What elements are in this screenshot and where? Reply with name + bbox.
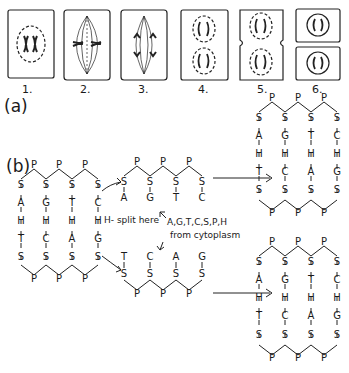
base: G [145,193,155,203]
hydrogen: H [41,216,51,226]
base: A [67,234,77,244]
cell-3-frame [121,10,167,80]
base: T [67,198,77,208]
hydrogen: H [16,216,26,226]
base: A [254,131,264,141]
phosphate: P [319,237,329,247]
sugar: S [41,180,51,190]
cell-6-chromosomes [314,19,323,69]
phosphate: P [293,208,303,218]
hydrogen: H [280,149,290,159]
base: A [306,167,316,177]
cell-1-nucleus [17,26,45,62]
base: T [306,131,316,141]
sugar: S [145,177,155,187]
phosphate: P [267,237,277,247]
cell-1-chromosomes [24,36,37,52]
phosphate: P [158,289,168,299]
base: G [41,198,51,208]
sugar: S [119,269,129,279]
base: G [93,234,103,244]
base: C [41,234,51,244]
sugar: S [119,177,129,187]
cell-5-chromosomes [256,19,266,69]
base: T [254,167,264,177]
phosphate: P [293,353,303,363]
phosphate: P [80,274,90,284]
base: C [145,252,155,262]
phosphate: P [29,160,39,170]
hydrogen: H [254,149,264,159]
sugar: S [67,252,77,262]
sugar: S [93,180,103,190]
base: A [254,275,264,285]
sugar: S [171,177,181,187]
phosphate: P [319,93,329,103]
sugar: S [254,113,264,123]
part-b-label: (b) [6,158,30,175]
sugar: S [254,185,264,195]
phosphate: P [267,208,277,218]
phosphate: P [132,157,142,167]
base: G [280,275,290,285]
sugar: S [332,113,342,123]
sugar: S [254,257,264,267]
phosphate: P [54,274,64,284]
hydrogen: H [280,293,290,303]
cell-3-chromosomes [134,34,156,56]
hydrogen: H [332,149,342,159]
cell-4-chromosomes [199,22,209,68]
base: A [119,193,129,203]
sugar: S [306,185,316,195]
sugar: S [67,180,77,190]
cell-4-frame [181,10,228,80]
phosphate: P [319,353,329,363]
base: C [93,198,103,208]
phosphate: P [29,274,39,284]
base: G [197,252,207,262]
base: C [280,311,290,321]
cell-1-frame [8,10,54,78]
base: T [306,275,316,285]
phosphate: P [319,208,329,218]
sugar: S [171,269,181,279]
phosphate: P [184,157,194,167]
base: A [171,252,181,262]
sugar: S [332,257,342,267]
base: G [332,311,342,321]
phosphate: P [132,289,142,299]
base: A [16,198,26,208]
sugar: S [145,269,155,279]
phosphate: P [293,93,303,103]
hydrogen: H [93,216,103,226]
base: T [119,252,129,262]
stage-2-number: 2. [80,84,91,95]
sugar: S [306,330,316,340]
sugar: S [280,330,290,340]
cell-5-frame [240,10,283,80]
base: T [16,234,26,244]
sugar: S [306,257,316,267]
sugar: S [93,252,103,262]
base: C [332,131,342,141]
sugar: S [16,252,26,262]
base: C [197,193,207,203]
base: T [171,193,181,203]
cytoplasm-note-line1: A,G,T,C,S,P,H [167,218,227,227]
stage-1-number: 1. [22,84,33,95]
stage-5-number: 5. [257,84,268,95]
sugar: S [280,257,290,267]
sugar: S [254,330,264,340]
hydrogen: H [306,293,316,303]
sugar: S [197,177,207,187]
phosphate: P [267,353,277,363]
sugar: S [16,180,26,190]
phosphate: P [54,160,64,170]
hydrogen: H [254,293,264,303]
cytoplasm-note-line2: from cytoplasm [170,231,240,240]
sugar: S [280,185,290,195]
sugar: S [41,252,51,262]
hydrogen: H [67,216,77,226]
sugar: S [280,113,290,123]
base: G [280,131,290,141]
